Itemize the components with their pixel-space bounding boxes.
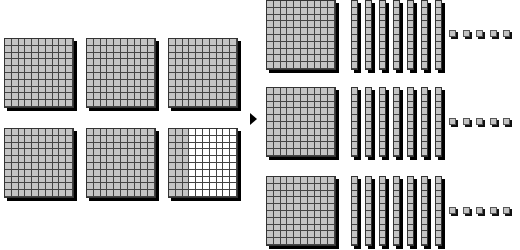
unit-cube bbox=[449, 30, 456, 37]
ten-rod bbox=[435, 176, 442, 246]
ten-rod bbox=[379, 0, 386, 70]
unit-cube bbox=[490, 207, 497, 214]
ten-rod bbox=[351, 87, 358, 157]
ten-rod bbox=[407, 87, 414, 157]
right-arrow-icon bbox=[250, 113, 257, 125]
unit-cube bbox=[449, 207, 456, 214]
ten-rod bbox=[365, 176, 372, 246]
ten-rod bbox=[351, 0, 358, 70]
hundred-flat bbox=[266, 87, 336, 157]
hundred-flat bbox=[168, 38, 238, 108]
hundred-flat bbox=[4, 38, 74, 108]
hundred-flat bbox=[86, 38, 156, 108]
ten-rod bbox=[407, 176, 414, 246]
unit-cube bbox=[503, 118, 510, 125]
unit-cube bbox=[463, 207, 470, 214]
ten-rod bbox=[421, 0, 428, 70]
unit-cube bbox=[490, 118, 497, 125]
hundred-flat bbox=[86, 128, 156, 198]
ten-rod bbox=[365, 0, 372, 70]
unit-cube bbox=[490, 30, 497, 37]
ten-rod bbox=[421, 87, 428, 157]
ten-rod bbox=[379, 87, 386, 157]
ten-rod bbox=[393, 176, 400, 246]
ten-rod bbox=[351, 176, 358, 246]
ten-rod bbox=[393, 0, 400, 70]
unit-cube bbox=[476, 30, 483, 37]
ten-rod bbox=[435, 0, 442, 70]
unit-cube bbox=[503, 207, 510, 214]
hundred-flat bbox=[266, 0, 336, 70]
unit-cube bbox=[503, 30, 510, 37]
ten-rod bbox=[421, 176, 428, 246]
hundred-flat bbox=[4, 128, 74, 198]
ten-rod bbox=[435, 87, 442, 157]
unit-cube bbox=[449, 118, 456, 125]
ten-rod bbox=[379, 176, 386, 246]
unit-cube bbox=[463, 30, 470, 37]
unit-cube bbox=[463, 118, 470, 125]
ten-rod bbox=[393, 87, 400, 157]
hundred-flat bbox=[168, 128, 238, 198]
ten-rod bbox=[407, 0, 414, 70]
hundred-flat bbox=[266, 176, 336, 246]
unit-cube bbox=[476, 118, 483, 125]
ten-rod bbox=[365, 87, 372, 157]
unit-cube bbox=[476, 207, 483, 214]
